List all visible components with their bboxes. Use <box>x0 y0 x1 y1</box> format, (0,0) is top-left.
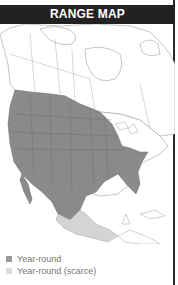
map-legend: Year-round Year-round (scarce) <box>6 253 96 277</box>
range-map-panel: RANGE MAP <box>0 0 175 285</box>
panel-title: RANGE MAP <box>0 5 175 24</box>
legend-label: Year-round (scarce) <box>17 266 96 276</box>
legend-item-year-round: Year-round <box>6 253 96 264</box>
swatch-year-round-scarce <box>6 268 12 274</box>
range-map <box>0 24 175 244</box>
legend-item-year-round-scarce: Year-round (scarce) <box>6 265 96 276</box>
central-america-outline <box>118 210 165 244</box>
legend-label: Year-round <box>17 254 61 264</box>
north-america-map <box>0 24 175 244</box>
swatch-year-round <box>6 256 12 262</box>
